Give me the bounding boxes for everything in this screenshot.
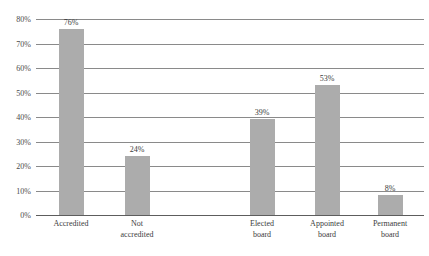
bar[interactable] <box>59 29 84 215</box>
y-axis-tick-label: 10% <box>1 186 31 195</box>
x-axis-tick-label: Permanent board <box>373 219 407 240</box>
gridline <box>36 166 424 167</box>
gridline <box>36 93 424 94</box>
gridline <box>36 44 424 45</box>
bar-value-label: 39% <box>255 108 270 117</box>
chart-title <box>0 0 429 3</box>
x-axis-tick-label: Appointed board <box>310 219 344 240</box>
bar-value-label: 76% <box>64 18 79 27</box>
y-axis-tick-label: 80% <box>1 15 31 24</box>
bar[interactable] <box>125 156 150 215</box>
y-axis-tick-label: 40% <box>1 113 31 122</box>
gridline <box>36 191 424 192</box>
bar-value-label: 24% <box>130 145 145 154</box>
bar-value-label: 8% <box>385 184 396 193</box>
x-axis-tick-label: Accredited <box>53 219 88 230</box>
x-axis: AccreditedNot accreditedElected boardApp… <box>0 217 429 256</box>
bar-value-label: 53% <box>320 74 335 83</box>
bar[interactable] <box>315 85 340 215</box>
bar[interactable] <box>250 119 275 215</box>
bar[interactable] <box>378 195 403 215</box>
gridline <box>36 19 424 20</box>
bar-chart-figure: 0%10%20%30%40%50%60%70%80% 76%24%39%53%8… <box>0 0 429 256</box>
gridline <box>36 117 424 118</box>
x-axis-tick-label: Not accredited <box>121 219 154 240</box>
y-axis-tick-label: 30% <box>1 137 31 146</box>
y-axis-tick-label: 20% <box>1 162 31 171</box>
y-axis-tick-label: 60% <box>1 64 31 73</box>
gridline <box>36 142 424 143</box>
plot-area: 76%24%39%53%8% <box>36 19 424 215</box>
gridline <box>36 215 424 216</box>
x-axis-tick-label: Elected board <box>250 219 274 240</box>
y-axis-tick-label: 50% <box>1 88 31 97</box>
gridline <box>36 68 424 69</box>
y-axis-tick-label: 70% <box>1 39 31 48</box>
